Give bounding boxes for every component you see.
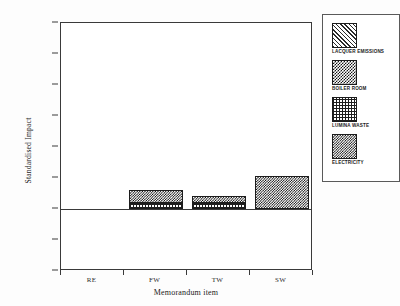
chart-legend: LACQUER EMISSIONSBOILER ROOMLUMINA WASTE… <box>322 14 400 182</box>
bar-segment <box>129 203 183 209</box>
y-tick-mark <box>52 84 58 85</box>
x-tick-mark <box>123 270 124 275</box>
x-tick-mark <box>249 270 250 275</box>
y-tick-mark <box>52 146 58 147</box>
bar-segment <box>129 190 183 203</box>
legend-item[interactable]: BOILER ROOM <box>332 60 398 91</box>
x-tick-label-fw: FW <box>149 276 160 284</box>
legend-swatch-icon <box>332 134 357 159</box>
legend-item[interactable]: LACQUER EMISSIONS <box>332 23 398 54</box>
x-tick-mark <box>186 270 187 275</box>
legend-swatch-icon <box>332 60 357 85</box>
y-tick-mark <box>52 270 58 271</box>
y-axis-ticks: -10-5051015202530 <box>0 0 60 306</box>
legend-item[interactable]: LUMINA WASTE <box>332 97 398 128</box>
bar-group-re <box>66 23 120 271</box>
y-tick-mark <box>52 239 58 240</box>
legend-label: LACQUER EMISSIONS <box>332 49 398 54</box>
legend-swatch-icon <box>332 23 357 48</box>
plot-area <box>60 22 312 270</box>
y-tick-mark <box>52 115 58 116</box>
x-tick-label-sw: SW <box>275 276 286 284</box>
y-tick-mark <box>52 208 58 209</box>
y-tick-mark <box>52 177 58 178</box>
bar-group-sw <box>255 23 309 271</box>
x-tick-label-re: RE <box>87 276 96 284</box>
x-tick-label-tw: TW <box>212 276 223 284</box>
legend-label: BOILER ROOM <box>332 86 398 91</box>
y-tick-mark <box>52 53 58 54</box>
bar-segment <box>255 176 309 209</box>
legend-label: LUMINA WASTE <box>332 123 398 128</box>
legend-item[interactable]: ELECTRICITY <box>332 134 398 165</box>
x-axis-title: Memorandum item <box>60 288 312 297</box>
legend-swatch-icon <box>332 97 357 122</box>
x-tick-mark <box>60 270 61 275</box>
bar-group-fw <box>129 23 183 271</box>
bar-group-tw <box>192 23 246 271</box>
chart-figure: Standardised Impact -10-5051015202530 RE… <box>0 0 400 306</box>
bar-segment <box>192 203 246 209</box>
x-tick-mark <box>312 270 313 275</box>
legend-label: ELECTRICITY <box>332 160 398 165</box>
y-tick-mark <box>52 22 58 23</box>
bar-segment <box>192 196 246 203</box>
